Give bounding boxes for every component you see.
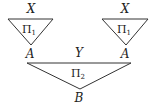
right-triangle: X Π1 A <box>102 2 148 61</box>
bottom-apex-label: B <box>74 91 84 105</box>
right-inner-label: Π1 <box>117 23 131 37</box>
bottom-top-label: Y <box>75 46 84 60</box>
bottom-triangle: Y Π2 B <box>27 46 131 105</box>
left-top-label: X <box>26 2 36 16</box>
left-apex-label: A <box>25 47 35 61</box>
right-apex-label: A <box>120 47 130 61</box>
left-triangle: X Π1 A <box>8 2 53 61</box>
right-top-label: X <box>120 2 130 16</box>
proof-tree-diagram: X Π1 A X Π1 A Y Π2 B <box>0 0 157 106</box>
left-inner-label: Π1 <box>22 23 36 37</box>
bottom-inner-label: Π2 <box>71 67 85 81</box>
